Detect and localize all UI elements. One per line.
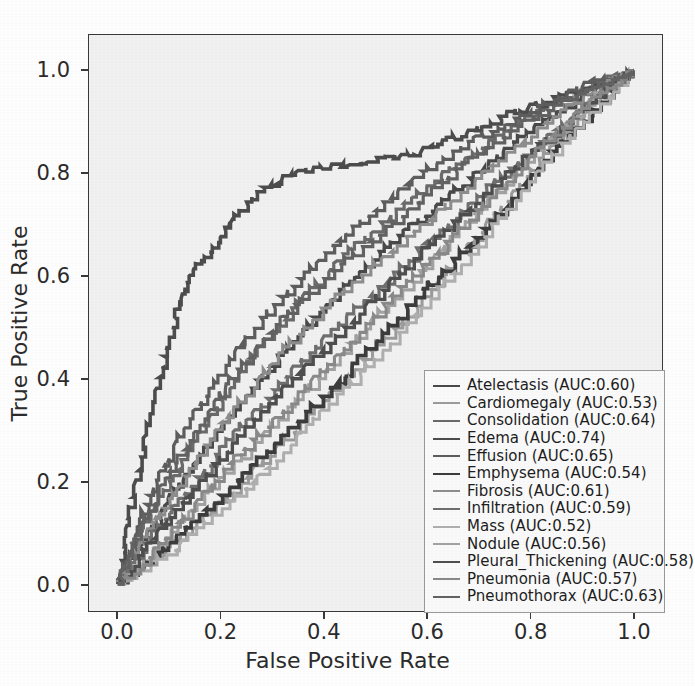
y-tick-label: 0.8 [37,161,70,185]
y-tick-label: 1.0 [37,58,70,82]
legend-line-icon [433,508,460,510]
legend-item-label: Edema (AUC:0.74) [467,430,606,447]
legend-line-icon [433,543,460,545]
x-tick-label: 1.0 [617,620,650,644]
legend-item[interactable]: Pleural_Thickening (AUC:0.58) [431,553,657,571]
y-tick-mark [81,378,88,380]
y-axis-label: True Positive Rate [8,225,33,421]
legend-item-label: Atelectasis (AUC:0.60) [467,377,635,394]
x-tick-mark [530,612,532,619]
x-tick-mark [426,612,428,619]
y-tick-label: 0.6 [37,264,70,288]
legend-item[interactable]: Pneumothorax (AUC:0.63) [431,588,657,606]
legend-line-icon [433,526,460,528]
legend-item-label: Mass (AUC:0.52) [467,518,591,535]
legend-item[interactable]: Mass (AUC:0.52) [431,518,657,536]
y-tick-label: 0.4 [37,367,70,391]
x-tick-label: 0.8 [514,620,547,644]
legend-line-icon [433,420,460,422]
x-tick-mark [633,612,635,619]
y-tick-label: 0.2 [37,470,70,494]
legend-line-icon [433,596,460,598]
y-tick-mark [81,275,88,277]
y-tick-mark [81,481,88,483]
y-tick-label: 0.0 [37,573,70,597]
legend-item-label: Pneumothorax (AUC:0.63) [467,588,663,605]
legend-line-icon [433,561,460,563]
legend-item-label: Cardiomegaly (AUC:0.53) [467,395,658,412]
legend-item-label: Emphysema (AUC:0.54) [467,465,646,482]
legend-item[interactable]: Edema (AUC:0.74) [431,430,657,448]
legend-item-label: Consolidation (AUC:0.64) [467,412,656,429]
legend-item[interactable]: Nodule (AUC:0.56) [431,535,657,553]
x-axis-label: False Positive Rate [0,648,695,673]
legend-item-label: Pleural_Thickening (AUC:0.58) [467,553,694,570]
legend-line-icon [433,455,460,457]
legend-item[interactable]: Fibrosis (AUC:0.61) [431,483,657,501]
legend-item-label: Nodule (AUC:0.56) [467,536,606,553]
legend-item-label: Effusion (AUC:0.65) [467,448,614,465]
roc-curve-figure: 0.00.20.40.60.81.00.00.20.40.60.81.0 Fal… [0,0,695,686]
legend: Atelectasis (AUC:0.60)Cardiomegaly (AUC:… [424,370,665,613]
legend-item-label: Fibrosis (AUC:0.61) [467,483,610,500]
x-tick-label: 0.4 [307,620,340,644]
y-tick-mark [81,584,88,586]
legend-item-label: Infiltration (AUC:0.59) [467,500,631,517]
x-tick-label: 0.6 [410,620,443,644]
legend-item[interactable]: Infiltration (AUC:0.59) [431,500,657,518]
y-tick-mark [81,69,88,71]
x-tick-label: 0.0 [100,620,133,644]
legend-line-icon [433,578,460,580]
x-tick-label: 0.2 [204,620,237,644]
legend-line-icon [433,385,460,387]
x-tick-mark [116,612,118,619]
legend-item[interactable]: Atelectasis (AUC:0.60) [431,377,657,395]
x-tick-mark [220,612,222,619]
legend-line-icon [433,473,460,475]
y-axis-label-wrapper: True Positive Rate [0,0,40,646]
legend-item[interactable]: Cardiomegaly (AUC:0.53) [431,395,657,413]
legend-item[interactable]: Effusion (AUC:0.65) [431,447,657,465]
legend-item[interactable]: Pneumonia (AUC:0.57) [431,571,657,589]
legend-line-icon [433,438,460,440]
legend-item[interactable]: Consolidation (AUC:0.64) [431,412,657,430]
x-tick-mark [323,612,325,619]
legend-line-icon [433,402,460,404]
legend-item-label: Pneumonia (AUC:0.57) [467,571,637,588]
y-tick-mark [81,172,88,174]
legend-line-icon [433,490,460,492]
legend-item[interactable]: Emphysema (AUC:0.54) [431,465,657,483]
